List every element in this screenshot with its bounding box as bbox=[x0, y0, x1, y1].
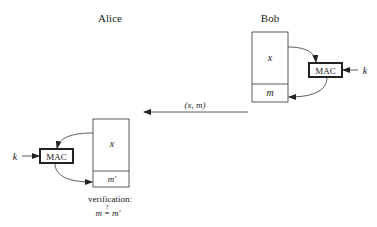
alice-mac-box: MAC bbox=[40, 149, 73, 163]
formula-right: m′ bbox=[112, 208, 121, 218]
bob-mac-label: MAC bbox=[315, 66, 336, 76]
alice-label: Alice bbox=[98, 12, 122, 24]
bob-mac-to-tag-arrow bbox=[289, 77, 327, 97]
bob-tag-m: m bbox=[266, 87, 273, 98]
alice-mac-to-tag-arrow bbox=[55, 163, 92, 182]
alice-key-label: k bbox=[13, 151, 18, 162]
transmission-label: (x, m) bbox=[185, 100, 206, 110]
bob-mac-box: MAC bbox=[309, 63, 342, 77]
verification-label: verification: bbox=[88, 194, 132, 204]
alice-message-block: x m′ bbox=[93, 119, 129, 187]
bob-x-to-mac-arrow bbox=[288, 47, 316, 62]
alice-x-to-mac-arrow bbox=[57, 133, 93, 148]
mac-diagram: Alice Bob x m MAC k (x, m) x m′ MAC k ve… bbox=[0, 0, 377, 227]
alice-message-x: x bbox=[109, 138, 115, 149]
bob-message-x: x bbox=[267, 52, 273, 63]
bob-label: Bob bbox=[261, 12, 280, 24]
alice-tag-m-prime: m′ bbox=[108, 174, 117, 184]
bob-message-block: x m bbox=[252, 32, 288, 102]
formula-left: m bbox=[96, 208, 103, 218]
formula-question: ? bbox=[106, 204, 109, 210]
verification-formula: m = ? m′ bbox=[96, 204, 122, 218]
bob-key-label: k bbox=[363, 65, 368, 76]
alice-mac-label: MAC bbox=[46, 152, 67, 162]
